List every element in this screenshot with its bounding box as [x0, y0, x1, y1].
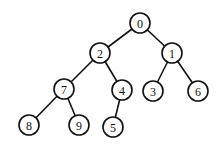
- tree-node-7: 7: [54, 79, 74, 99]
- tree-node-2: 2: [90, 43, 110, 63]
- tree-node-6: 6: [188, 81, 208, 101]
- tree-node-3: 3: [143, 81, 163, 101]
- node-label: 8: [26, 119, 32, 133]
- tree-node-4: 4: [112, 80, 132, 100]
- node-label: 0: [137, 17, 143, 31]
- node-label: 9: [76, 119, 82, 133]
- tree-node-0: 0: [130, 13, 150, 33]
- node-label: 6: [195, 85, 201, 99]
- node-label: 1: [169, 47, 175, 61]
- node-label: 7: [61, 83, 67, 97]
- node-label: 5: [110, 121, 116, 135]
- node-label: 4: [119, 84, 125, 98]
- tree-node-5: 5: [103, 117, 123, 137]
- node-label: 2: [97, 47, 103, 61]
- tree-diagram: 0217436895: [0, 0, 219, 150]
- node-label: 3: [150, 85, 156, 99]
- tree-node-8: 8: [19, 115, 39, 135]
- tree-edges: [29, 23, 198, 127]
- tree-node-9: 9: [69, 115, 89, 135]
- tree-node-1: 1: [162, 43, 182, 63]
